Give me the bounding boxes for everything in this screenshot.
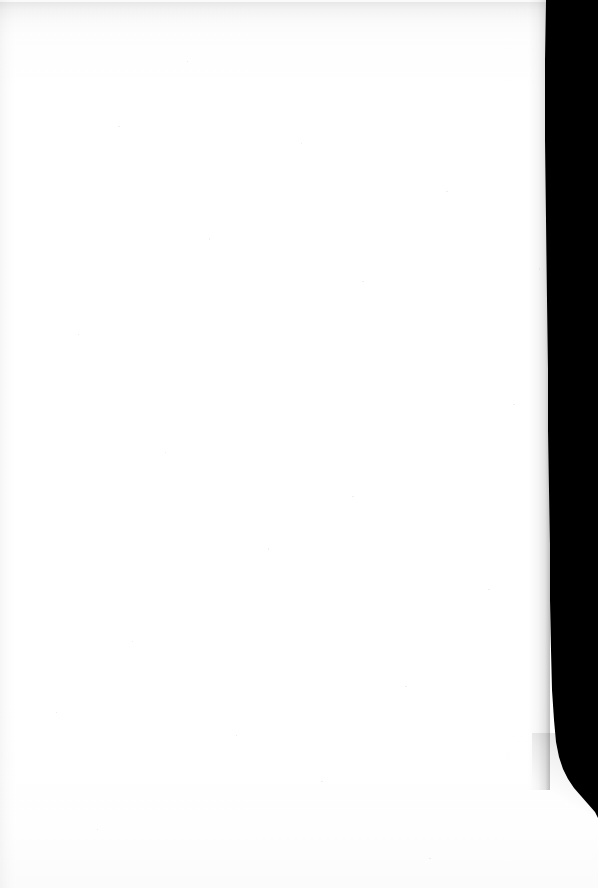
scanned-page	[0, 0, 598, 888]
page-content-area	[28, 46, 536, 848]
top-smudge-artifact	[0, 2, 598, 36]
left-margin-artifact	[0, 0, 16, 888]
